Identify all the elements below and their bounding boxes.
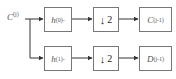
lowpass-filter-box: h(0)-: [44, 7, 72, 32]
downsample-box-top: ↓2: [93, 7, 119, 32]
down-arrow-icon: ↓: [100, 14, 106, 26]
approximation-output-box: C(j-1): [139, 7, 172, 32]
detail-output-box: D(j-1): [139, 46, 172, 71]
down-arrow-icon: ↓: [100, 53, 106, 65]
input-sup: (j): [13, 11, 19, 17]
highpass-filter-box: h(1)-: [44, 46, 72, 71]
input-signal-label: C(j): [7, 12, 19, 22]
downsample-factor: 2: [107, 14, 112, 25]
downsample-box-bottom: ↓2: [93, 46, 119, 71]
downsample-factor: 2: [107, 53, 112, 64]
